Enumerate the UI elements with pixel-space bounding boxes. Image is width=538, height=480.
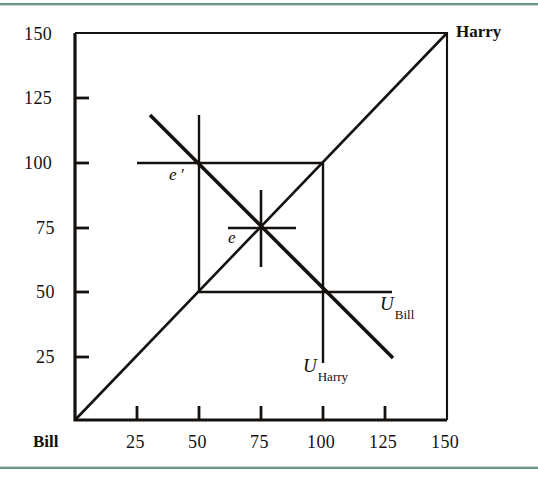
- point-label-e-prime: e ′: [169, 165, 184, 185]
- x-tick-label-75: 75: [250, 432, 269, 453]
- figure-svg: [0, 0, 538, 480]
- u-bill-symbol: U: [380, 293, 394, 314]
- point-label-e: e: [228, 228, 236, 248]
- x-tick-label-150: 150: [431, 432, 459, 453]
- figure-page: 150 125 100 75 50 25 25 50 75 100 125 15…: [0, 0, 538, 480]
- u-bill-u-harry-descending-line: [150, 115, 393, 358]
- x-axis-ticks: [137, 406, 385, 420]
- y-tick-label-150: 150: [24, 24, 52, 45]
- u-harry-symbol: U: [303, 355, 317, 376]
- x-tick-label-50: 50: [188, 432, 207, 453]
- curve-label-u-harry: UHarry: [303, 355, 347, 381]
- curve-label-u-bill: UBill: [380, 293, 413, 319]
- y-tick-label-100: 100: [24, 153, 52, 174]
- x-axis-name-bill: Bill: [33, 432, 59, 452]
- u-bill-subscript: Bill: [395, 307, 415, 322]
- edgeworth-box-figure: [0, 0, 538, 480]
- y-tick-label-125: 125: [24, 88, 52, 109]
- y-tick-label-75: 75: [36, 218, 55, 239]
- y-tick-label-50: 50: [36, 282, 55, 303]
- x-tick-label-100: 100: [307, 432, 335, 453]
- y-axis-ticks: [75, 98, 89, 357]
- x-tick-label-125: 125: [369, 432, 397, 453]
- y-tick-label-25: 25: [36, 347, 55, 368]
- x-tick-label-25: 25: [126, 432, 145, 453]
- y-axis-name-harry: Harry: [456, 22, 501, 42]
- u-harry-subscript: Harry: [318, 369, 348, 384]
